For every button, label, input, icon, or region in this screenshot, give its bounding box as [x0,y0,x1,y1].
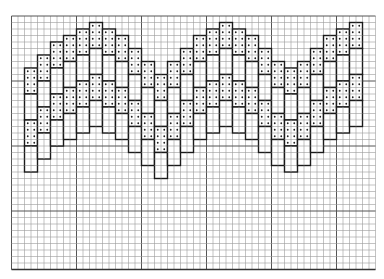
stitch-dot [235,96,237,98]
stitch-dot [59,103,61,105]
stitch-dot [33,70,35,72]
stitch-dot [267,51,269,53]
stitch-dot [98,90,100,92]
stitch-dot [92,38,94,40]
stitch-dot [46,64,48,66]
stitch-dot [202,44,204,46]
stitch-dot [300,64,302,66]
stitch-dot [33,90,35,92]
stitch-dot [150,64,152,66]
stitch-dot [53,51,55,53]
stitch-dot [222,77,224,79]
stitch-dot [79,31,81,33]
stitch-dot [241,103,243,105]
stitch-dot [196,38,198,40]
stitch-dot [352,83,354,85]
stitch-dot [248,51,250,53]
stitch-dot [313,122,315,124]
stitch-dot [352,25,354,27]
stitch-dot [345,90,347,92]
stitch-dot [157,135,159,137]
stitch-dot [53,109,55,111]
stitch-dot [228,90,230,92]
stitch-dot [85,31,87,33]
stitch-dot [118,103,120,105]
stitch-dot [339,90,341,92]
stitch-dot [53,103,55,105]
stitch-dot [176,135,178,137]
stitch-dot [176,64,178,66]
stitch-dot [189,122,191,124]
stitch-dot [352,31,354,33]
stitch-dot [105,90,107,92]
stitch-dot [345,51,347,53]
stitch-dot [215,38,217,40]
stitch-dot [332,109,334,111]
stitch-dot [150,135,152,137]
stitch-dot [261,70,263,72]
stitch-dot [98,25,100,27]
stitch-dot [157,90,159,92]
stitch-dot [27,135,29,137]
stitch-dot [72,44,74,46]
stitch-dot [319,116,321,118]
stitch-dot [105,83,107,85]
stitch-dot [79,90,81,92]
stitch-dot [72,57,74,59]
stitch-dot [183,103,185,105]
stitch-dot [222,83,224,85]
stitch-dot [196,51,198,53]
stitch-dot [98,38,100,40]
stitch-dot [287,122,289,124]
stitch-dot [300,77,302,79]
stitch-dot [157,142,159,144]
stitch-dot [124,38,126,40]
stitch-dot [163,83,165,85]
stitch-dot [53,96,55,98]
stitch-dot [248,90,250,92]
stitch-dot [66,44,68,46]
stitch-dot [222,25,224,27]
stitch-dot [33,142,35,144]
stitch-dot [144,64,146,66]
stitch-dot [183,116,185,118]
stitch-dot [306,135,308,137]
stitch-dot [72,96,74,98]
stitch-dot [326,96,328,98]
stitch-dot [157,148,159,150]
stitch-dot [40,70,42,72]
stitch-dot [274,116,276,118]
stitch-dot [92,90,94,92]
stitch-dot [137,51,139,53]
stitch-dot [228,96,230,98]
stitch-dot [33,129,35,131]
stitch-dot [46,57,48,59]
stitch-dot [46,109,48,111]
stitch-dot [144,135,146,137]
stitch-dot [196,96,198,98]
stitch-dot [111,31,113,33]
stitch-dot [92,83,94,85]
stitch-dot [339,44,341,46]
stitch-dot [241,38,243,40]
stitch-dot [124,51,126,53]
stitch-dot [241,44,243,46]
stitch-dot [300,70,302,72]
stitch-dot [261,51,263,53]
stitch-dot [137,64,139,66]
stitch-dot [306,77,308,79]
stitch-dot [274,77,276,79]
stitch-dot [72,103,74,105]
stitch-dot [59,44,61,46]
stitch-dot [228,38,230,40]
stitch-dot [163,77,165,79]
stitch-dot [280,77,282,79]
stitch-dot [241,96,243,98]
stitch-dot [319,70,321,72]
stitch-dot [358,44,360,46]
stitch-dot [105,44,107,46]
stitch-dot [235,90,237,92]
stitch-dot [332,96,334,98]
stitch-dot [202,103,204,105]
stitch-dot [137,109,139,111]
